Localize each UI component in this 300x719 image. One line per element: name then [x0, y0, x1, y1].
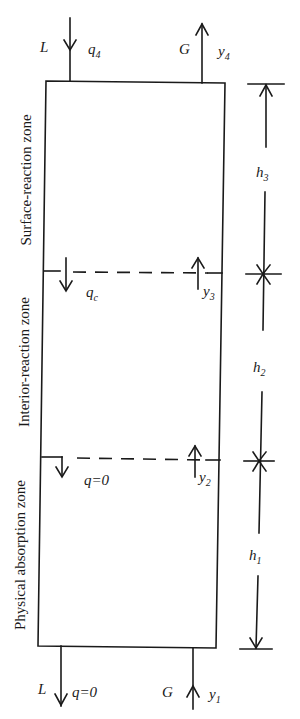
- svg-text:G: G: [179, 41, 190, 57]
- absorption-column-diagram: L q4 G y4 qc y3 q=0 y2 L q=0: [0, 0, 300, 719]
- liquid-inlet-stream: L q4: [39, 18, 101, 81]
- svg-text:q4: q4: [88, 41, 101, 60]
- svg-text:y3: y3: [201, 283, 215, 302]
- height-dimensions: h3 h2 h1: [240, 84, 284, 649]
- up-arrow-icon: [253, 461, 266, 471]
- zone-label-surface: Surface-reaction zone: [18, 114, 34, 246]
- svg-text:h2: h2: [253, 359, 266, 378]
- svg-text:qc: qc: [86, 284, 99, 303]
- svg-text:h1: h1: [249, 547, 262, 566]
- down-arrow-icon: [253, 452, 266, 461]
- svg-text:y1: y1: [207, 686, 221, 705]
- liquid-outlet-stream: L q=0: [37, 646, 98, 706]
- interface-upper: qc y3: [44, 258, 222, 303]
- gas-outlet-stream: G y4: [179, 24, 230, 83]
- svg-text:y2: y2: [197, 469, 211, 488]
- svg-text:L: L: [39, 39, 48, 55]
- column-outline: [38, 81, 225, 648]
- svg-text:q=0: q=0: [84, 472, 110, 488]
- svg-text:q=0: q=0: [72, 684, 98, 700]
- svg-text:G: G: [162, 684, 173, 700]
- svg-text:L: L: [37, 681, 46, 697]
- svg-text:h3: h3: [256, 164, 269, 183]
- gas-inlet-stream: G y1: [162, 648, 221, 709]
- svg-text:y4: y4: [216, 43, 230, 62]
- zone-label-physical: Physical absorption zone: [12, 480, 28, 630]
- interface-lower: q=0 y2: [42, 446, 220, 488]
- zone-label-interior: Interior-reaction zone: [16, 297, 32, 427]
